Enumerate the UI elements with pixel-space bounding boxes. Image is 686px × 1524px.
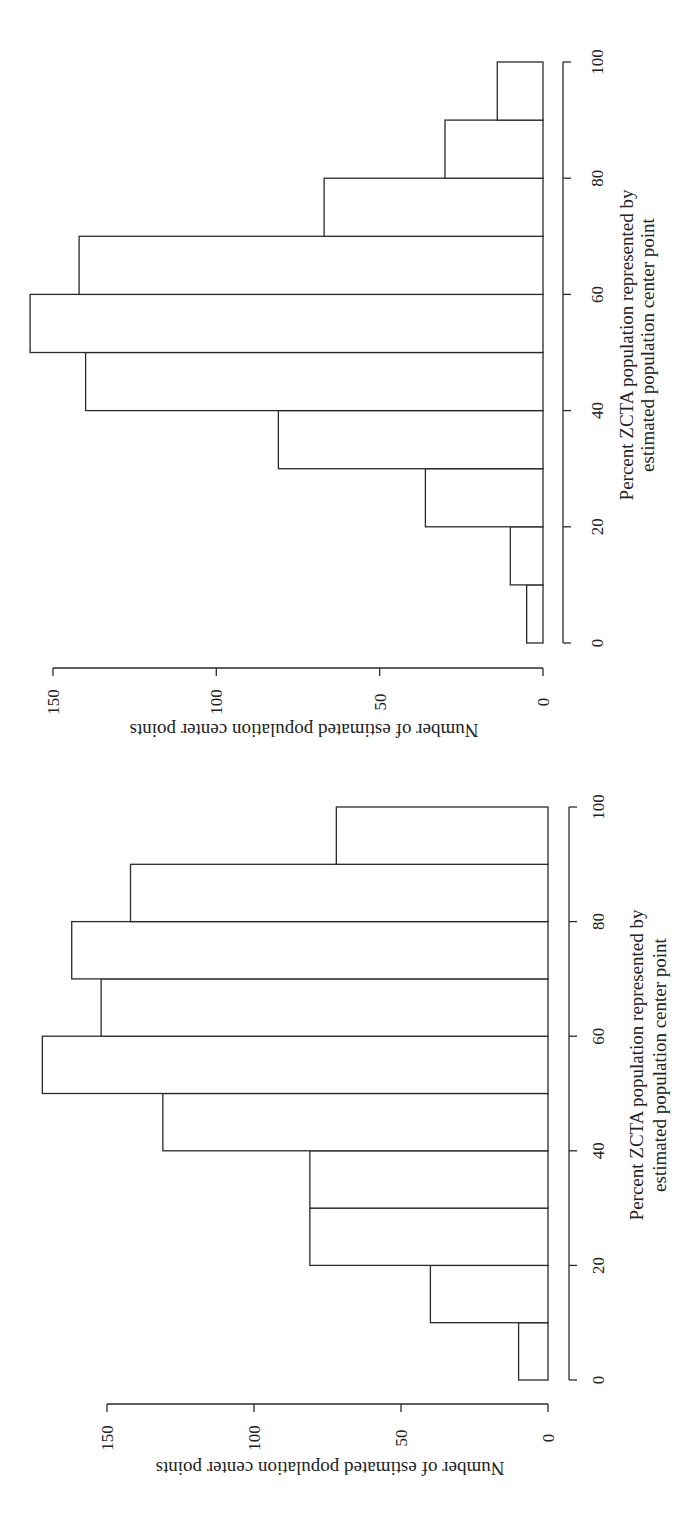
percent-tick-label: 60 xyxy=(589,1028,608,1045)
count-tick-label: 150 xyxy=(98,1425,117,1451)
percent-axis-title-line1: Percent ZCTA population represented by xyxy=(626,909,647,1220)
bars-group xyxy=(42,807,548,1380)
count-tick-label: 100 xyxy=(245,1425,264,1451)
count-tick-label: 50 xyxy=(392,1430,411,1447)
histogram-bar xyxy=(101,979,548,1036)
percent-tick-label: 0 xyxy=(589,1376,608,1385)
percent-axis: 020406080100 xyxy=(569,794,608,1384)
histogram-bar xyxy=(310,1151,548,1208)
percent-tick-label: 100 xyxy=(589,794,608,820)
histogram-bottom: 020406080100 050100150 Percent ZCTA popu… xyxy=(0,0,686,1524)
histogram-bar xyxy=(72,922,548,979)
count-axis-title: Number of estimated population center po… xyxy=(156,1458,505,1479)
histogram-bar xyxy=(430,1265,548,1322)
count-tick-label: 0 xyxy=(539,1434,558,1443)
histogram-bar xyxy=(336,807,548,864)
histogram-bar xyxy=(163,1094,548,1151)
percent-tick-label: 20 xyxy=(589,1257,608,1274)
count-axis: 050100150 xyxy=(98,1404,558,1451)
percent-axis-title-line2: estimated population center point xyxy=(649,937,670,1192)
percent-tick-label: 80 xyxy=(589,913,608,930)
histogram-bottom-panel: 020406080100 050100150 Percent ZCTA popu… xyxy=(0,0,686,1524)
percent-tick-label: 40 xyxy=(589,1142,608,1159)
histogram-bar xyxy=(42,1036,548,1093)
histogram-bar xyxy=(310,1208,548,1265)
histogram-bar xyxy=(519,1323,548,1380)
histogram-bar xyxy=(131,864,548,921)
